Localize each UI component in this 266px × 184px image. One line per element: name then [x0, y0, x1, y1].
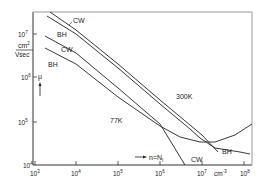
y-tick-1e6: 106 — [21, 73, 31, 81]
x-tick-1e6: 106 — [155, 169, 165, 177]
label-77k: 77K — [110, 117, 123, 124]
label-cw-mid: CW — [61, 46, 73, 53]
curve-bh-77k — [45, 48, 252, 142]
x-tick-1e8: 108 — [240, 169, 250, 177]
y-tick-1e5: 105 — [18, 118, 28, 126]
x-tick-1e5: 105 — [113, 169, 123, 177]
x-tick-labels: 103 104 105 106 107 108 cm-3 — [30, 169, 250, 177]
y-unit-numerator: cm2 — [18, 41, 30, 49]
x-ticks — [35, 161, 244, 165]
label-bh-mid: BH — [48, 61, 58, 68]
mobility-chart: 103 104 105 106 107 108 cm-3 107 106 105… — [0, 0, 266, 184]
y-tick-1e7: 107 — [18, 30, 28, 38]
label-cw-bottom: CW — [191, 156, 203, 163]
y-unit-label: cm2 Vsec μ — [15, 41, 42, 96]
y-ticks — [33, 34, 37, 122]
label-bh-top: BH — [57, 31, 67, 38]
curves — [45, 12, 252, 165]
x-arrow-label: n=NI — [135, 154, 163, 163]
y-arrowhead-icon — [39, 82, 42, 86]
label-cw-top: CW — [73, 17, 85, 24]
curve-bh-300k — [47, 16, 250, 154]
y-unit-denominator: Vsec — [15, 51, 30, 58]
label-300k: 300K — [176, 93, 193, 100]
x-arrowhead-icon — [143, 156, 147, 159]
x-unit-label: cm-3 — [214, 169, 227, 177]
label-bh-right: BH — [222, 148, 232, 155]
y-mu-symbol: μ — [38, 73, 42, 81]
svg-text:n=NI: n=NI — [149, 154, 163, 163]
x-tick-1e7: 107 — [197, 169, 207, 177]
x-tick-1e3: 103 — [30, 169, 40, 177]
x-tick-1e4: 104 — [71, 169, 81, 177]
curve-cw-77k — [45, 36, 185, 165]
y-tick-1e4: 104 — [23, 161, 33, 169]
